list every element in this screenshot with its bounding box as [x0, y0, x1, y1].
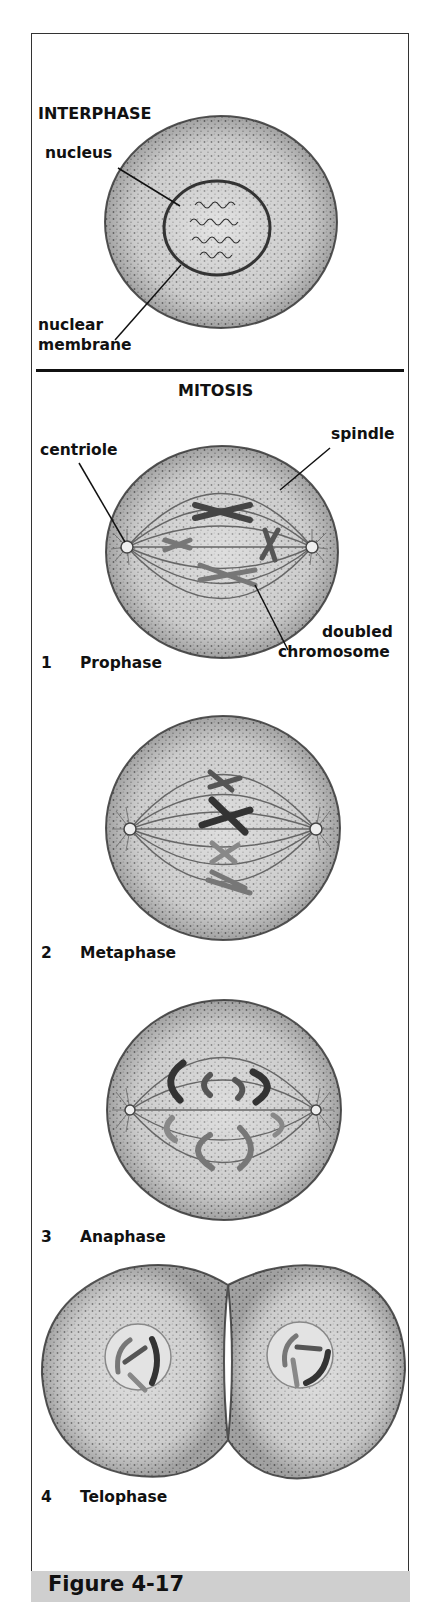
label-nuclear-membrane-line2: membrane [38, 336, 132, 354]
stage-4-name: Telophase [80, 1488, 167, 1506]
interphase-cell [105, 116, 337, 340]
telophase-cells [42, 1265, 405, 1478]
figure-caption-bar: Figure 4-17 [31, 1571, 410, 1602]
mitosis-heading: MITOSIS [178, 381, 253, 400]
stage-1-name: Prophase [80, 654, 162, 672]
stage-2-number: 2 [41, 944, 52, 962]
centriole-right [306, 541, 318, 553]
metaphase-cell [106, 716, 340, 940]
anaphase-cell [107, 1000, 341, 1220]
stage-3-name: Anaphase [80, 1228, 166, 1246]
centriole-left [121, 541, 133, 553]
label-doubled-chromosome-line1: doubled [322, 623, 393, 641]
label-spindle: spindle [331, 425, 395, 443]
mitosis-illustration [0, 0, 429, 1602]
stage-2-name: Metaphase [80, 944, 176, 962]
label-nuclear-membrane-line1: nuclear [38, 316, 103, 334]
stage-4-number: 4 [41, 1488, 52, 1506]
stage-1-number: 1 [41, 654, 52, 672]
label-centriole: centriole [40, 441, 118, 459]
section-divider [36, 369, 404, 372]
label-nucleus: nucleus [45, 144, 112, 162]
figure-label: Figure 4-17 [48, 1572, 184, 1596]
prophase-cell [79, 446, 338, 658]
interphase-heading: INTERPHASE [38, 104, 151, 123]
label-doubled-chromosome-line2: chromosome [278, 643, 390, 661]
stage-3-number: 3 [41, 1228, 52, 1246]
